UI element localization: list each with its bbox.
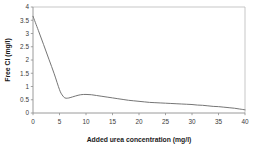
x-tick-label: 20 [135,118,143,125]
x-tick-label: 5 [58,118,62,125]
x-tick-label: 15 [109,118,117,125]
x-axis-title: Added urea concentration (mg/l) [87,136,192,144]
y-tick-label: 2.5 [20,43,29,50]
y-tick-label: 2 [25,56,29,63]
x-tick-label: 40 [241,118,249,125]
x-tick-label: 30 [188,118,196,125]
x-tick-label: 25 [162,118,170,125]
plot-area-background [33,7,245,113]
y-tick-label: 3 [25,30,29,37]
x-tick-label: 35 [215,118,223,125]
y-axis-ticks: 00.511.522.533.54 [20,3,33,116]
chart-figure: 00.511.522.533.54 0510152025303540 Added… [0,0,255,146]
x-tick-label: 0 [31,118,35,125]
y-tick-label: 1.5 [20,70,29,77]
y-tick-label: 4 [25,3,29,10]
x-axis-ticks: 0510152025303540 [31,113,249,125]
y-tick-label: 0.5 [20,96,29,103]
y-tick-label: 1 [25,83,29,90]
y-axis-title: Free Cl (mg/l) [4,38,12,81]
y-tick-label: 0 [25,109,29,116]
x-tick-label: 10 [82,118,90,125]
y-tick-label: 3.5 [20,17,29,24]
line-chart: 00.511.522.533.54 0510152025303540 Added… [0,0,255,146]
